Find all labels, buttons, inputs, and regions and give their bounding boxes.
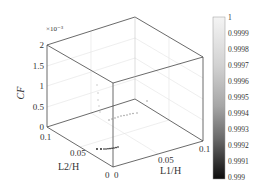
z-tick-label: 2 — [40, 40, 45, 50]
y-tick-label: 0 — [105, 170, 110, 180]
z-tick-label: 0.5 — [33, 102, 45, 112]
colorbar-tick: 0.9993 — [228, 125, 249, 134]
z-tick-label: 1.5 — [33, 61, 45, 71]
z-tick-label: 0 — [40, 122, 45, 132]
colorbar-tick: 0.9995 — [228, 93, 249, 102]
gridlines — [47, 31, 203, 154]
x-tick-label: 0 — [114, 170, 119, 180]
colorbar-tick: 0.9992 — [228, 141, 249, 150]
y-axis: 0.1 0.05 0 L2/H — [40, 132, 110, 180]
colorbar-tick: 0.9998 — [228, 45, 249, 54]
z-tick-label: 1 — [40, 81, 45, 91]
x-axis: 0 0.05 0.1 L1/H — [114, 144, 210, 180]
colorbar-tick: 0.9999 — [228, 29, 249, 38]
x-axis-label: L1/H — [160, 165, 181, 176]
chart-3d-scatter: 2 1.5 1 0.5 0 ×10⁻³ CF 0.1 0.05 0 L2/H 0… — [0, 0, 266, 190]
y-tick-label: 0.05 — [70, 148, 86, 158]
y-tick-label: 0.1 — [40, 132, 51, 142]
z-axis-label: CF — [15, 86, 26, 100]
colorbar-tick: 0.9994 — [228, 109, 249, 118]
colorbar: 1 0.9999 0.9998 0.9997 0.9996 0.9995 0.9… — [213, 13, 249, 182]
x-tick-label: 0.05 — [158, 155, 174, 165]
colorbar-tick: 0.9997 — [228, 61, 249, 70]
colorbar-tick: 0.999 — [228, 173, 245, 182]
y-axis-label: L2/H — [58, 161, 79, 172]
colorbar-tick: 0.9991 — [228, 157, 249, 166]
colorbar-tick: 0.9996 — [228, 77, 249, 86]
axes-box — [47, 17, 203, 167]
colorbar-tick: 1 — [228, 13, 232, 22]
x-tick-label: 0.1 — [199, 144, 210, 154]
z-multiplier: ×10⁻³ — [46, 25, 63, 33]
z-axis: 2 1.5 1 0.5 0 ×10⁻³ CF — [15, 25, 63, 132]
